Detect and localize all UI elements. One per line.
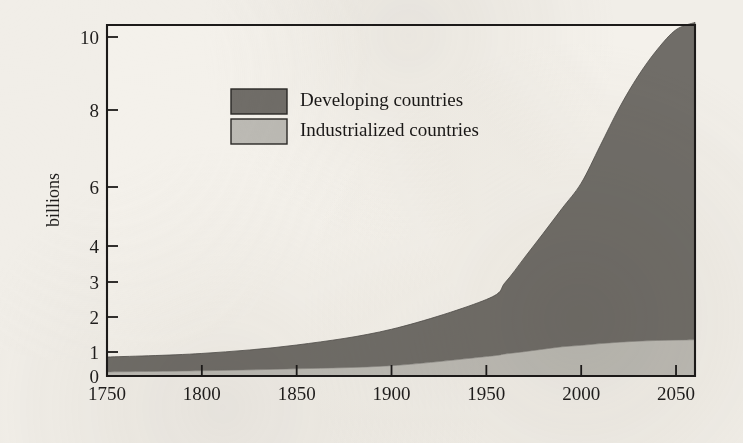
x-tick-label: 2000 <box>562 383 600 404</box>
population-area-chart: 012346810 1750180018501900195020002050 b… <box>0 0 743 443</box>
y-tick-label: 10 <box>80 27 99 48</box>
legend-label-developing: Developing countries <box>300 89 463 110</box>
y-tick-label: 2 <box>90 307 100 328</box>
x-tick-label: 1750 <box>88 383 126 404</box>
legend-swatch-developing <box>231 89 287 114</box>
legend-swatch-industrialized <box>231 119 287 144</box>
y-tick-label: 8 <box>90 100 100 121</box>
y-axis-title: billions <box>43 173 63 227</box>
chart-figure: 012346810 1750180018501900195020002050 b… <box>0 0 743 443</box>
x-tick-label: 2050 <box>657 383 695 404</box>
legend-label-industrialized: Industrialized countries <box>300 119 479 140</box>
y-tick-label: 4 <box>90 236 100 257</box>
y-tick-label: 1 <box>90 342 100 363</box>
y-tick-label: 6 <box>90 177 100 198</box>
x-tick-label: 1900 <box>373 383 411 404</box>
x-tick-label: 1800 <box>183 383 221 404</box>
x-tick-label: 1850 <box>278 383 316 404</box>
y-tick-label: 3 <box>90 272 100 293</box>
x-tick-label: 1950 <box>467 383 505 404</box>
